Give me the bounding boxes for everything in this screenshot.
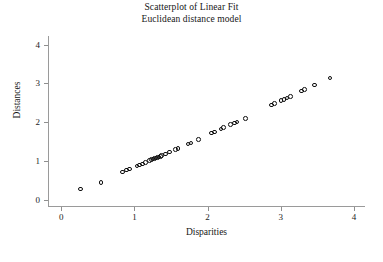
x-tick	[354, 207, 355, 211]
data-point	[167, 150, 172, 155]
page-footer-artifact	[120, 252, 270, 258]
x-tick-label: 3	[269, 212, 293, 222]
x-tick	[134, 207, 135, 211]
y-tick-label: 4	[22, 39, 40, 51]
plot-area	[48, 36, 365, 207]
x-tick-label: 1	[122, 212, 146, 222]
data-point	[243, 116, 248, 121]
data-point	[328, 76, 333, 81]
data-point	[196, 137, 201, 142]
data-point	[312, 83, 317, 88]
data-point	[176, 146, 181, 151]
x-tick	[61, 207, 62, 211]
data-point	[189, 141, 194, 146]
data-point	[272, 101, 277, 106]
x-tick-label: 4	[342, 212, 366, 222]
y-tick	[44, 161, 48, 162]
x-tick-label: 0	[49, 212, 73, 222]
scatterplot-figure: Scatterplot of Linear Fit Euclidean dist…	[0, 0, 383, 262]
y-tick	[44, 45, 48, 46]
chart-title-block: Scatterplot of Linear Fit Euclidean dist…	[0, 2, 383, 25]
y-tick-label: 0	[22, 194, 40, 206]
data-point	[78, 187, 83, 192]
data-point	[127, 167, 132, 172]
x-tick	[281, 207, 282, 211]
chart-title: Scatterplot of Linear Fit	[0, 2, 383, 14]
chart-subtitle: Euclidean distance model	[0, 14, 383, 26]
x-tick-label: 2	[196, 212, 220, 222]
x-tick	[208, 207, 209, 211]
y-tick-label: 2	[22, 116, 40, 128]
y-tick	[44, 83, 48, 84]
y-tick-label: 3	[22, 77, 40, 89]
data-point	[288, 94, 293, 99]
x-axis-label: Disparities	[48, 227, 365, 237]
y-tick-label: 1	[22, 155, 40, 167]
data-point	[99, 180, 104, 185]
y-tick	[44, 200, 48, 201]
data-point	[302, 87, 307, 92]
data-point	[235, 120, 240, 125]
y-axis-label: Distances	[12, 60, 22, 140]
y-tick	[44, 122, 48, 123]
data-point	[212, 130, 217, 135]
data-point	[221, 125, 226, 130]
